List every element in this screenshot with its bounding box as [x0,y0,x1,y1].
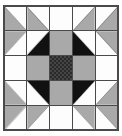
patch-background [50,106,72,130]
quilt-patch-hst-r1-c3 [72,30,96,56]
patch-background [5,56,27,80]
patch-background [27,56,49,80]
quilt-patch-solid-white-r2-c0 [4,55,28,81]
quilt-patch-hst-r3-c1 [26,80,50,106]
quilt-patch-hst-r4-c0 [4,105,28,131]
quilt-patch-solid-gray-r3-c2 [49,80,73,106]
quilt-patch-solid-gray-r2-c3 [72,55,96,81]
quilt-patch-hst-r0-c1 [26,6,50,32]
quilt-patch-solid-white-r4-c2 [49,105,73,131]
patch-background [96,56,118,80]
quilt-patch-hst-r4-c3 [72,105,96,131]
quilt-patch-solid-gray-r1-c2 [49,30,73,56]
quilt-patch-hst-r3-c3 [72,80,96,106]
quilt-figure [0,0,122,136]
patch-background [50,31,72,55]
patch-background [50,81,72,105]
quilt-patch-hst-r0-c4 [95,6,119,32]
quilt-patch-hst-r1-c1 [26,30,50,56]
quilt-patch-hst-r4-c4 [95,105,119,131]
quilt-patch-solid-white-r0-c2 [49,6,73,32]
quilt-patch-hst-r1-c0 [4,30,28,56]
patch-background [50,56,72,80]
quilt-block-grid [3,5,119,131]
patch-background [73,56,95,80]
quilt-patch-hst-r3-c0 [4,80,28,106]
quilt-patch-solid-white-r2-c4 [95,55,119,81]
quilt-patch-hst-r0-c3 [72,6,96,32]
quilt-patch-hst-r1-c4 [95,30,119,56]
quilt-patch-checkered-r2-c2 [49,55,73,81]
quilt-patch-hst-r0-c0 [4,6,28,32]
quilt-patch-hst-r3-c4 [95,80,119,106]
quilt-patch-hst-r4-c1 [26,105,50,131]
quilt-patch-solid-gray-r2-c1 [26,55,50,81]
patch-background [50,7,72,31]
